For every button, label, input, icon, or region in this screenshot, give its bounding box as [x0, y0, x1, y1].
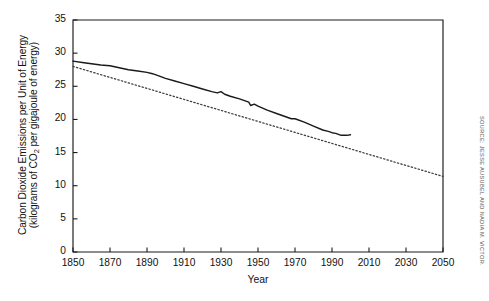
y-tick-label: 30 — [40, 46, 66, 57]
chart-plot-area — [0, 0, 489, 301]
data-series-line-1 — [73, 61, 351, 135]
source-credit-text: SOURCE: JESSE AUSUBEL AND NADIA M. VICTO… — [479, 96, 485, 286]
y-tick-label: 25 — [40, 79, 66, 90]
y-tick-label: 5 — [40, 212, 66, 223]
y-tick-label: 15 — [40, 146, 66, 157]
source-credit: SOURCE: JESSE AUSUBEL AND NADIA M. VICTO… — [473, 96, 485, 286]
x-tick-label: 2050 — [419, 257, 467, 268]
y-axis-title-line-2-pre: (kilograms of CO — [28, 153, 39, 228]
data-series-layer — [73, 61, 443, 176]
y-tick-label: 0 — [40, 245, 66, 256]
y-axis-title-line-2-post: per gigajoule of energy) — [28, 42, 39, 149]
axis-ticks — [73, 20, 443, 252]
y-axis-title-line-1: Carbon Dioxide Emissions per Unit of Ene… — [17, 15, 28, 255]
data-series-line-2 — [73, 66, 443, 176]
y-tick-label: 20 — [40, 112, 66, 123]
axis-frame — [73, 20, 443, 252]
x-axis-title: Year — [73, 274, 443, 285]
y-tick-label: 10 — [40, 179, 66, 190]
chart-figure: Carbon Dioxide Emissions per Unit of Ene… — [0, 0, 489, 301]
y-tick-label: 35 — [40, 13, 66, 24]
